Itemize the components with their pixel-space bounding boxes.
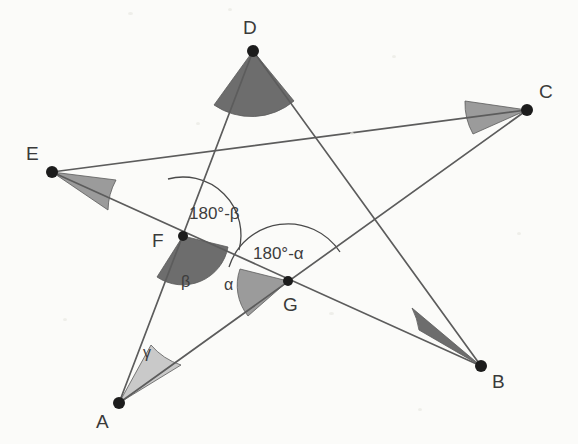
edge-E-B [52,172,481,366]
point-dot-B [475,360,487,372]
scan-speck [392,55,396,58]
point-label-E: E [26,144,39,163]
scan-speck [517,232,521,235]
point-label-D: D [243,18,257,37]
scan-speck [196,122,200,125]
angle-wedge-D [214,51,294,117]
angle-label-beta: β [181,274,190,290]
point-dot-E [46,166,58,178]
edge-A-D [119,51,253,403]
angle-label-supplement-beta: 180°-β [189,205,240,222]
point-label-C: C [539,82,553,101]
point-label-A: A [96,412,109,431]
angle-label-alpha: α [224,277,233,293]
point-label-G: G [283,295,298,314]
scan-speck [228,8,232,11]
angle-label-supplement-alpha: 180°-α [253,245,304,262]
edge-D-B [253,51,481,366]
scan-speck [63,318,67,321]
point-dot-G [283,276,293,286]
angle-wedge-B [412,308,481,366]
scan-speck [329,312,334,315]
angle-wedge-E [52,172,116,210]
point-dot-F [178,231,188,241]
point-dot-A [113,397,125,409]
geometry-figure: A B C D E F G 180°-β 180°-α β α γ [0,0,578,444]
scan-speck [418,408,422,411]
scan-speck [350,132,354,135]
point-label-F: F [152,231,164,250]
scan-speck [128,12,133,15]
point-label-B: B [492,372,505,391]
point-dot-D [247,45,259,57]
edge-E-C [52,110,527,172]
angle-label-gamma: γ [143,345,151,361]
point-dot-C [521,104,533,116]
